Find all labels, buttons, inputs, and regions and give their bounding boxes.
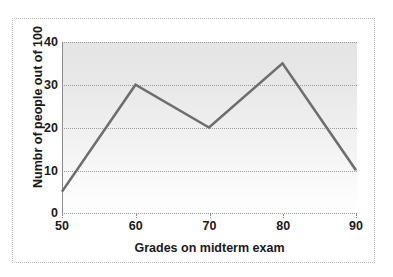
x-tick-label-70: 70 bbox=[190, 220, 230, 233]
x-tick-mark-70 bbox=[210, 214, 211, 218]
line-chart-figure: 40 30 20 10 0 50 60 70 80 90 Grades on m… bbox=[0, 0, 393, 277]
x-tick-label-60: 60 bbox=[116, 220, 156, 233]
x-axis-tick-labels: 50 60 70 80 90 bbox=[62, 220, 357, 236]
x-axis-title: Grades on midterm exam bbox=[62, 241, 357, 255]
x-tick-label-80: 80 bbox=[263, 220, 303, 233]
x-tick-mark-50 bbox=[62, 214, 63, 218]
y-axis-title: Numbr of people out of 100 bbox=[31, 17, 45, 197]
y-tick-label-0: 0 bbox=[24, 207, 58, 220]
data-series-line bbox=[62, 42, 357, 214]
x-tick-mark-90 bbox=[356, 214, 357, 218]
x-tick-label-90: 90 bbox=[336, 220, 376, 233]
x-tick-mark-80 bbox=[283, 214, 284, 218]
series-polyline bbox=[62, 63, 356, 191]
x-tick-label-50: 50 bbox=[42, 220, 82, 233]
x-tick-mark-60 bbox=[136, 214, 137, 218]
